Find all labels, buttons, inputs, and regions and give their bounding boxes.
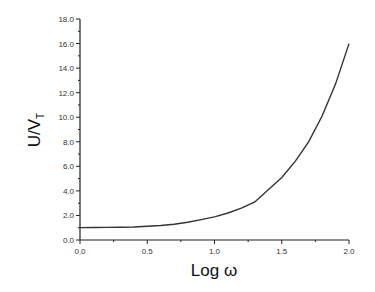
y-axis-title: U/VT: [25, 113, 46, 147]
y-tick-label: 8.0: [63, 138, 75, 147]
x-tick-label: 1.5: [276, 247, 288, 256]
svg-text:U/VT: U/VT: [25, 113, 46, 147]
y-tick-label: 16.0: [58, 40, 74, 49]
y-tick-label: 12.0: [58, 89, 74, 98]
y-tick-label: 10.0: [58, 113, 74, 122]
x-axis-ticks: 0.00.51.01.52.0: [74, 240, 355, 256]
y-axis-ticks: 0.02.04.06.08.010.012.014.016.018.0: [58, 15, 80, 245]
y-tick-label: 0.0: [63, 236, 75, 245]
x-tick-label: 2.0: [343, 247, 355, 256]
x-axis-title: Log ω: [191, 261, 237, 280]
x-tick-label: 1.0: [209, 247, 221, 256]
y-tick-label: 2.0: [63, 211, 75, 220]
y-tick-label: 4.0: [63, 187, 75, 196]
y-tick-label: 6.0: [63, 162, 75, 171]
x-tick-label: 0.0: [74, 247, 86, 256]
x-tick-label: 0.5: [142, 247, 154, 256]
y-axis-title-main: U/V: [25, 118, 44, 147]
data-series-line: [80, 44, 349, 228]
y-tick-label: 18.0: [58, 15, 74, 24]
line-chart: 0.02.04.06.08.010.012.014.016.018.0 0.00…: [0, 0, 375, 292]
y-axis-title-subscript: T: [35, 113, 46, 119]
y-tick-label: 14.0: [58, 64, 74, 73]
